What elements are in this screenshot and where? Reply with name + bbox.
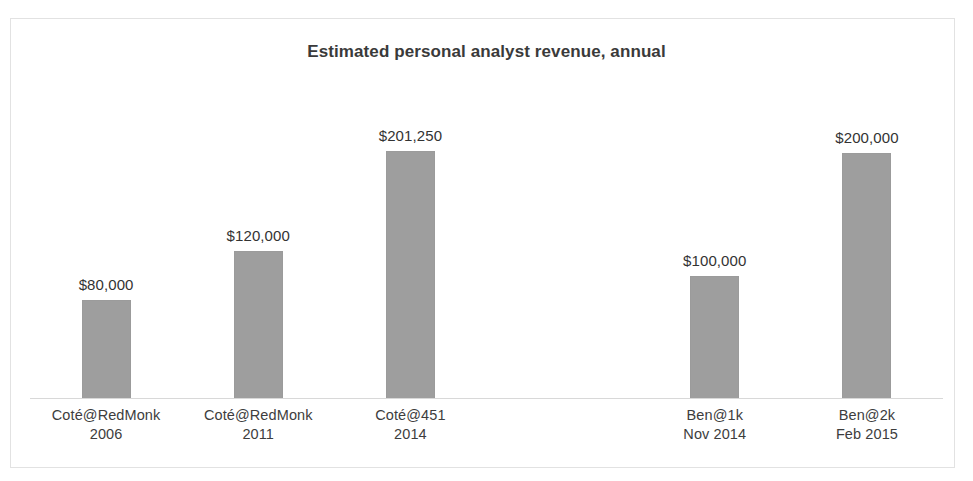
x-tick-label-5: Ben@1k Nov 2014: [639, 406, 791, 444]
bar-value-label-2: $120,000: [227, 227, 290, 244]
bar-slot-4-empty: [487, 95, 639, 399]
x-tick-label-3-line2: 2014: [334, 425, 486, 444]
bar-5[interactable]: [690, 276, 739, 399]
x-tick-label-2: Coté@RedMonk 2011: [182, 406, 334, 444]
x-tick-label-2-line2: 2011: [182, 425, 334, 444]
x-tick-label-1-line2: 2006: [30, 425, 182, 444]
bar-value-label-1: $80,000: [79, 276, 134, 293]
x-tick-label-2-line1: Coté@RedMonk: [204, 407, 313, 423]
bar-3[interactable]: [386, 151, 435, 399]
chart-screenshot: Estimated personal analyst revenue, annu…: [0, 0, 973, 481]
bar-value-label-5: $100,000: [683, 252, 746, 269]
plot-area: $80,000 $120,000 $201,250 $100,000 $200: [30, 95, 943, 399]
bar-slot-2[interactable]: $120,000: [182, 95, 334, 399]
bar-slot-1[interactable]: $80,000: [30, 95, 182, 399]
x-tick-label-3: Coté@451 2014: [334, 406, 486, 444]
x-axis-labels: Coté@RedMonk 2006 Coté@RedMonk 2011 Coté…: [30, 406, 943, 444]
x-tick-label-6: Ben@2k Feb 2015: [791, 406, 943, 444]
bar-6[interactable]: [842, 153, 891, 399]
bar-value-label-6: $200,000: [835, 129, 898, 146]
bar-1[interactable]: [82, 300, 131, 399]
x-axis-line: [30, 398, 943, 399]
x-tick-label-1-line1: Coté@RedMonk: [52, 407, 161, 423]
x-tick-label-5-line1: Ben@1k: [687, 407, 743, 423]
x-tick-label-3-line1: Coté@451: [375, 407, 445, 423]
bar-2[interactable]: [234, 251, 283, 399]
x-tick-label-6-line1: Ben@2k: [839, 407, 895, 423]
bar-slot-6[interactable]: $200,000: [791, 95, 943, 399]
bar-slot-5[interactable]: $100,000: [639, 95, 791, 399]
bar-slot-3[interactable]: $201,250: [334, 95, 486, 399]
chart-title: Estimated personal analyst revenue, annu…: [0, 42, 973, 62]
bar-value-label-3: $201,250: [379, 127, 442, 144]
x-tick-label-1: Coté@RedMonk 2006: [30, 406, 182, 444]
x-tick-label-6-line2: Feb 2015: [791, 425, 943, 444]
x-tick-label-5-line2: Nov 2014: [639, 425, 791, 444]
bar-series: $80,000 $120,000 $201,250 $100,000 $200: [30, 95, 943, 399]
